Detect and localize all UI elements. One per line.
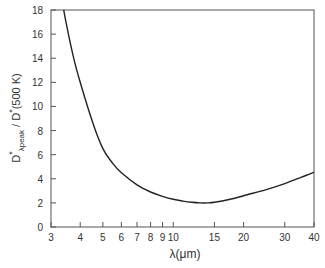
x-tick-label: 5 (100, 232, 106, 243)
y-tick-label: 10 (32, 101, 44, 112)
y-tick-label: 4 (37, 174, 43, 185)
x-tick-label: 30 (279, 232, 291, 243)
y-tick-label: 8 (37, 126, 43, 137)
y-tick-label: 2 (37, 198, 43, 209)
x-tick-label: 9 (160, 232, 166, 243)
x-tick-label: 6 (119, 232, 125, 243)
chart: 34567891015203040 024681012141618 λ(μm) … (0, 0, 325, 268)
x-tick-label: 8 (148, 232, 154, 243)
x-tick-label: 40 (308, 232, 320, 243)
y-tick-label: 18 (32, 5, 44, 16)
y-tick-label: 12 (32, 77, 44, 88)
x-axis-ticks: 34567891015203040 (48, 222, 320, 243)
svg-text:D*λpeak / D*(500 K): D*λpeak / D*(500 K) (7, 73, 26, 163)
x-tick-label: 10 (168, 232, 180, 243)
y-tick-label: 0 (37, 222, 43, 233)
data-curve (64, 10, 314, 203)
x-tick-label: 7 (134, 232, 140, 243)
plot-frame (51, 10, 314, 227)
y-axis-ticks: 024681012141618 (32, 5, 56, 233)
x-tick-label: 15 (209, 232, 221, 243)
y-axis-label: D*λpeak / D*(500 K) (7, 73, 26, 163)
y-tick-label: 14 (32, 53, 44, 64)
x-tick-label: 20 (238, 232, 250, 243)
x-axis-label: λ(μm) (170, 247, 201, 261)
y-tick-label: 6 (37, 150, 43, 161)
plot-border (51, 10, 314, 227)
x-tick-label: 4 (77, 232, 83, 243)
y-tick-label: 16 (32, 29, 44, 40)
x-tick-label: 3 (48, 232, 54, 243)
